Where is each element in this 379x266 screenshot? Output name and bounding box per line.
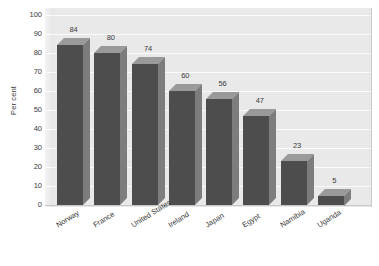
y-tick-label: 0 (16, 201, 42, 209)
y-tick-label: 30 (16, 144, 42, 152)
bar-side-face (158, 57, 165, 205)
x-axis-label: Namibia (279, 208, 306, 229)
x-axis-label: Ireland (167, 210, 190, 229)
gridline (45, 34, 371, 35)
y-tick-label: 70 (16, 68, 42, 76)
bar[interactable] (132, 64, 158, 205)
bar[interactable] (57, 45, 83, 205)
bar-front-face (318, 196, 344, 206)
bar-front-face (206, 99, 232, 205)
bar-side-face (195, 84, 202, 205)
x-axis-label: Uganda (316, 209, 342, 229)
y-tick-label: 90 (16, 30, 42, 38)
y-tick-label: 50 (16, 106, 42, 114)
y-tick-label: 100 (16, 11, 42, 19)
y-tick-label: 10 (16, 182, 42, 190)
y-axis-ticks: 1009080706050403020100 (12, 0, 42, 266)
bar-side-face (307, 154, 314, 205)
bar-front-face (281, 161, 307, 205)
bar[interactable] (318, 196, 344, 206)
bar-front-face (243, 116, 269, 205)
bar[interactable] (169, 91, 195, 205)
y-tick-label: 40 (16, 125, 42, 133)
bar-side-face (83, 38, 90, 205)
bar-side-face (120, 46, 127, 205)
plot-area (45, 8, 372, 207)
bar-front-face (57, 45, 83, 205)
x-axis-label: Egypt (241, 212, 261, 229)
x-axis-label: Norway (55, 209, 81, 229)
bar-chart: Per cent 1009080706050403020100 84807460… (0, 0, 379, 266)
bar-front-face (132, 64, 158, 205)
bar[interactable] (281, 161, 307, 205)
x-axis-label: France (92, 210, 116, 229)
bar[interactable] (243, 116, 269, 205)
bar-side-face (269, 109, 276, 205)
axis-baseline (45, 205, 371, 206)
bar-front-face (169, 91, 195, 205)
x-axis-label: Japan (204, 212, 225, 229)
bar-side-face (232, 92, 239, 205)
bar[interactable] (206, 99, 232, 205)
bar-front-face (94, 53, 120, 205)
y-tick-label: 20 (16, 163, 42, 171)
y-tick-label: 60 (16, 87, 42, 95)
bar[interactable] (94, 53, 120, 205)
y-tick-label: 80 (16, 49, 42, 57)
gridline (45, 15, 371, 16)
